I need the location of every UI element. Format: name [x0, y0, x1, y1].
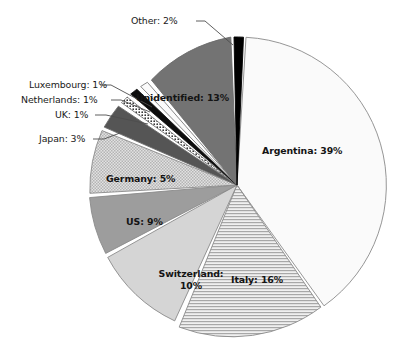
pie-chart-svg	[0, 0, 395, 347]
pie-label-us: US: 9%	[126, 216, 163, 228]
pie-slices	[90, 37, 387, 337]
pie-label-uk: UK: 1%	[55, 109, 88, 121]
pie-chart-figure: Other: 2% Luxembourg: 1% Netherlands: 1%…	[0, 0, 395, 347]
pie-label-switzerland: Switzerland: 10%	[145, 268, 237, 291]
pie-label-italy: Italy: 16%	[231, 274, 283, 286]
pie-label-other: Other: 2%	[131, 15, 178, 27]
pie-label-netherlands: Netherlands: 1%	[21, 94, 98, 106]
pie-label-luxembourg: Luxembourg: 1%	[29, 79, 107, 91]
pie-label-argentina: Argentina: 39%	[262, 145, 342, 157]
pie-label-unidentified: Unidentified: 13%	[136, 92, 229, 104]
pie-label-switzerland-line2: 10%	[180, 280, 202, 291]
pie-label-switzerland-line1: Switzerland:	[158, 268, 223, 279]
pie-label-japan: Japan: 3%	[39, 133, 85, 145]
pie-label-germany: Germany: 5%	[106, 173, 175, 185]
